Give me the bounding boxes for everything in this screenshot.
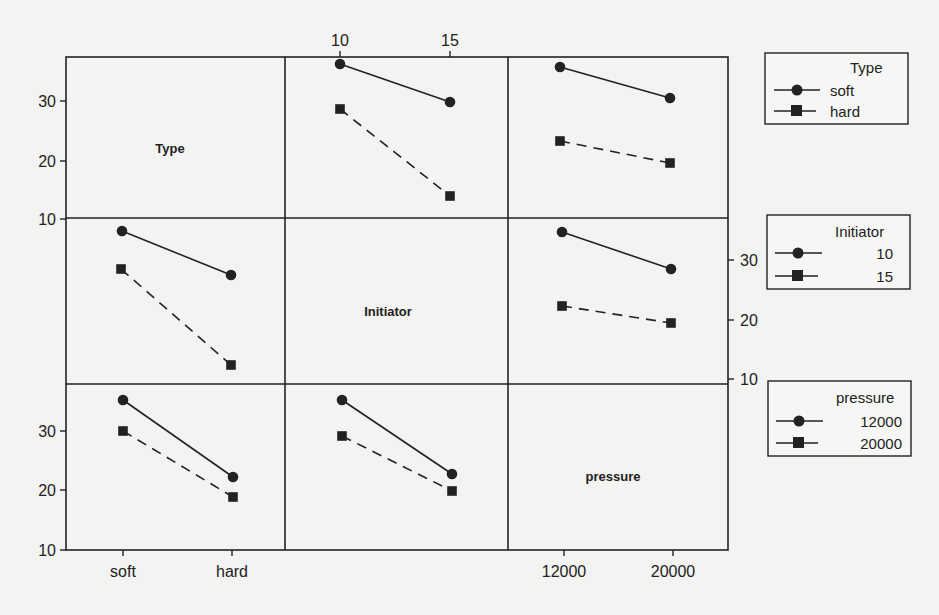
panel-initiator-type [117, 227, 236, 370]
circle-marker [118, 227, 127, 236]
circle-marker [336, 60, 345, 69]
circle-marker [448, 470, 457, 479]
circle-marker [558, 228, 567, 237]
circle-marker [666, 94, 675, 103]
panel-type-pressure [556, 63, 675, 168]
legend-initiator: Initiator 10 15 [767, 215, 910, 289]
square-marker [791, 105, 802, 116]
legend-pressure: pressure 12000 20000 [768, 381, 911, 456]
legend-entry: soft [830, 82, 855, 99]
diagonal-label-initiator: Initiator [364, 304, 412, 319]
legend-title: Initiator [835, 223, 884, 240]
x-tick-label: 20000 [651, 563, 696, 580]
y-tick-label: 30 [740, 252, 758, 269]
panel-lines [117, 60, 676, 502]
panel-initiator-pressure [558, 228, 676, 328]
square-marker [793, 437, 804, 448]
square-marker [448, 487, 456, 495]
diagonal-label-pressure: pressure [586, 469, 641, 484]
square-marker [336, 105, 344, 113]
x-tick-label: 10 [331, 32, 349, 49]
square-marker [792, 270, 803, 281]
circle-marker [793, 248, 804, 259]
circle-marker [667, 265, 676, 274]
legend-type: Type soft hard [765, 53, 908, 124]
circle-marker [229, 473, 238, 482]
square-marker [558, 302, 566, 310]
y-tick-label: 30 [38, 423, 56, 440]
circle-marker [556, 63, 565, 72]
panel-type-initiator [336, 60, 455, 201]
circle-marker [446, 98, 455, 107]
x-tick-label: soft [110, 563, 136, 580]
circle-marker [227, 271, 236, 280]
panel-pressure-type [119, 396, 238, 502]
legend-entry: hard [830, 103, 860, 120]
x-tick-label: 12000 [542, 563, 587, 580]
circle-marker [792, 85, 803, 96]
legend-entry: 10 [876, 245, 893, 262]
y-tick-label: 10 [740, 371, 758, 388]
y-tick-label: 10 [38, 542, 56, 559]
circle-marker [794, 416, 805, 427]
y-tick-label: 20 [38, 153, 56, 170]
x-tick-label: 15 [441, 32, 459, 49]
legend-entry: 15 [876, 268, 893, 285]
square-marker [229, 493, 237, 501]
diagonal-label-type: Type [155, 141, 184, 156]
y-tick-label: 20 [740, 312, 758, 329]
legend-title: Type [850, 59, 883, 76]
square-marker [117, 265, 125, 273]
interaction-plot-matrix: 30 20 10 30 20 10 10 15 30 20 10 soft ha… [0, 0, 939, 615]
y-tick-label: 20 [38, 482, 56, 499]
square-marker [556, 137, 564, 145]
legend-entry: 20000 [860, 435, 902, 452]
circle-marker [119, 396, 128, 405]
square-marker [666, 159, 674, 167]
square-marker [338, 432, 346, 440]
legend-title: pressure [836, 389, 894, 406]
circle-marker [338, 396, 347, 405]
square-marker [119, 427, 127, 435]
panel-pressure-initiator [338, 396, 457, 496]
square-marker [227, 361, 235, 369]
square-marker [446, 192, 454, 200]
y-tick-label: 10 [38, 211, 56, 228]
legend-entry: 12000 [860, 413, 902, 430]
square-marker [667, 319, 675, 327]
y-tick-label: 30 [38, 93, 56, 110]
x-tick-label: hard [216, 563, 248, 580]
